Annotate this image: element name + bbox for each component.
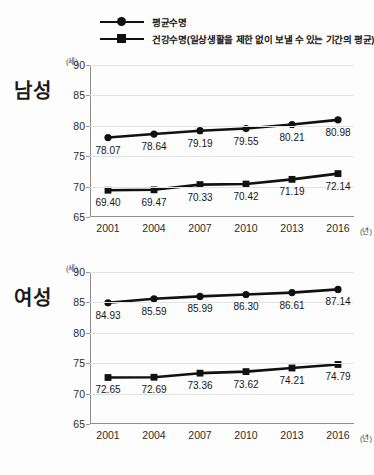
x-tick-label: 2013 <box>280 429 303 441</box>
data-point-label: 70.42 <box>233 191 258 202</box>
circle-marker <box>334 116 341 123</box>
x-tick-label: 2001 <box>96 429 119 441</box>
data-point-label: 71.19 <box>279 186 304 197</box>
legend-label: 평균수명 <box>152 15 187 29</box>
legend: 평균수명 건강수명(일상생활을 제한 없이 보낼 수 있는 기간의 평균) <box>100 14 365 48</box>
y-tick-label: 75 <box>73 150 85 162</box>
data-point-label: 86.61 <box>279 300 304 311</box>
y-tick-label: 70 <box>73 388 85 400</box>
data-point-label: 79.55 <box>233 136 258 147</box>
x-tick-label: 2001 <box>96 222 119 234</box>
y-tick-mark <box>86 302 90 303</box>
y-tick-mark <box>86 65 90 66</box>
data-point-label: 73.62 <box>233 379 258 390</box>
plot-area: 657075808590200120042007201020132016(년)8… <box>90 272 354 424</box>
data-point-label: 74.21 <box>279 375 304 386</box>
panel-title-female: 여성 <box>14 282 52 311</box>
data-point-label: 74.79 <box>325 371 350 382</box>
square-marker <box>289 365 296 372</box>
data-point-label: 72.69 <box>141 384 166 395</box>
data-point-label: 69.40 <box>95 197 120 208</box>
gridline <box>90 126 354 127</box>
circle-marker <box>196 127 203 134</box>
panel-male: 남성 (세) 657075808590200120042007201020132… <box>0 55 370 255</box>
gridline <box>90 95 354 96</box>
gridline <box>90 394 354 395</box>
circle-marker <box>196 293 203 300</box>
gridline <box>90 187 354 188</box>
y-tick-label: 80 <box>73 120 85 132</box>
y-tick-label: 80 <box>73 327 85 339</box>
x-tick-label: 2013 <box>280 222 303 234</box>
x-tick-label: 2010 <box>234 429 257 441</box>
plot-area: 657075808590200120042007201020132016(년)7… <box>90 65 354 217</box>
square-marker <box>335 361 342 368</box>
square-marker <box>243 368 250 375</box>
y-tick-mark <box>86 333 90 334</box>
y-tick-label: 90 <box>73 59 85 71</box>
y-tick-mark <box>86 272 90 273</box>
circle-marker-icon <box>100 15 144 29</box>
circle-marker <box>150 130 157 137</box>
x-axis-unit: (년) <box>360 225 372 236</box>
gridline <box>90 302 354 303</box>
y-tick-mark <box>86 126 90 127</box>
square-marker <box>335 170 342 177</box>
square-marker <box>105 187 112 194</box>
square-marker <box>151 374 158 381</box>
gridline <box>90 156 354 157</box>
gridline <box>90 272 354 273</box>
data-point-label: 86.30 <box>233 301 258 312</box>
y-tick-mark <box>86 95 90 96</box>
x-tick-label: 2004 <box>142 222 165 234</box>
gridline <box>90 363 354 364</box>
y-tick-label: 85 <box>73 89 85 101</box>
y-tick-label: 90 <box>73 266 85 278</box>
x-tick-label: 2007 <box>188 222 211 234</box>
data-point-label: 80.98 <box>325 127 350 138</box>
circle-marker <box>104 134 111 141</box>
y-tick-label: 65 <box>73 418 85 430</box>
panel-female: 여성 (세) 657075808590200120042007201020132… <box>0 262 370 472</box>
y-tick-mark <box>86 156 90 157</box>
legend-label: 건강수명(일상생활을 제한 없이 보낼 수 있는 기간의 평균) <box>152 32 374 46</box>
x-tick-label: 2010 <box>234 222 257 234</box>
data-point-label: 87.14 <box>325 296 350 307</box>
circle-marker <box>334 286 341 293</box>
y-tick-mark <box>86 424 90 425</box>
y-tick-label: 70 <box>73 181 85 193</box>
x-axis-unit: (년) <box>360 432 372 443</box>
panel-title-male: 남성 <box>14 75 52 104</box>
data-point-label: 72.65 <box>95 384 120 395</box>
x-tick-label: 2004 <box>142 429 165 441</box>
square-marker-icon <box>100 32 144 46</box>
data-point-label: 73.36 <box>187 380 212 391</box>
square-marker <box>105 374 112 381</box>
data-point-label: 85.99 <box>187 303 212 314</box>
series-lines <box>90 272 354 424</box>
gridline <box>90 65 354 66</box>
data-point-label: 79.19 <box>187 138 212 149</box>
square-marker <box>289 176 296 183</box>
x-tick-label: 2007 <box>188 429 211 441</box>
data-point-label: 78.64 <box>141 141 166 152</box>
y-tick-mark <box>86 217 90 218</box>
x-tick-label: 2016 <box>326 429 349 441</box>
legend-item-average-life: 평균수명 <box>100 14 365 29</box>
y-tick-label: 75 <box>73 357 85 369</box>
data-point-label: 78.07 <box>95 145 120 156</box>
circle-marker <box>288 121 295 128</box>
data-point-label: 80.21 <box>279 132 304 143</box>
circle-marker <box>150 295 157 302</box>
y-tick-mark <box>86 363 90 364</box>
gridline <box>90 333 354 334</box>
data-point-label: 70.33 <box>187 192 212 203</box>
x-tick-label: 2016 <box>326 222 349 234</box>
y-tick-label: 65 <box>73 211 85 223</box>
circle-marker <box>242 291 249 298</box>
series-lines <box>90 65 354 217</box>
data-point-label: 85.59 <box>141 306 166 317</box>
circle-marker <box>288 289 295 296</box>
square-marker <box>197 370 204 377</box>
